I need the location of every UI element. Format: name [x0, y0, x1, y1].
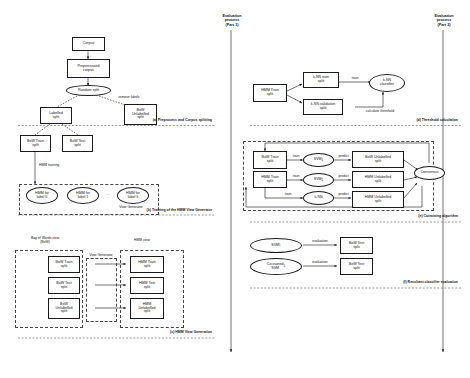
node-svm1-e-text: SVM	[314, 158, 322, 162]
edge-label-train-e-1: train	[288, 155, 304, 159]
panel-caption-d: (d) Threshold calculation	[300, 118, 458, 122]
node-svm1-f-subscript: 1	[279, 244, 281, 247]
node-svm2-e-subscript: 2	[322, 179, 324, 182]
edge-label-predict-e-1: predict	[334, 155, 353, 159]
node-hmm-test-split-c: HMM Test split	[130, 277, 164, 294]
node-cotrained-svm1-f: Co-trained SVM1	[250, 258, 302, 275]
node-knn-train-split: k-NN train split	[303, 72, 339, 88]
node-bow-unlabelled-split-c: BoW Unlabelled split	[48, 298, 80, 319]
node-svm1-f-text: SVM	[271, 244, 279, 248]
edge-label-hmm-training: HMM training	[39, 164, 79, 168]
node-hmm-label-0: HMM for label 0	[26, 187, 58, 204]
node-hmm-unlabelled-split-e-1: HMM Unlabelled split	[352, 171, 404, 188]
node-svm2-e: SVM2	[303, 173, 334, 187]
edge-label-predict-e-3: predict	[334, 193, 353, 197]
node-bow-test-split-c: BoW Test split	[48, 277, 80, 294]
panel-caption-a: (a) Preprocess and Corpus splitting	[60, 118, 212, 122]
spine-label-part1: Evaluation process (Part 1)	[211, 14, 253, 27]
node-hmm-train-split-d: HMM Train split	[253, 84, 287, 102]
node-bow-test-split-a: BoW Test split	[62, 135, 93, 152]
edge-label-remove-labels: remove labels	[106, 96, 152, 100]
node-hmm-train-split-c: HMM Train split	[130, 256, 164, 273]
node-bow-train-split-c: BoW Train split	[48, 256, 80, 273]
panel-caption-c: (c) HMM View Generation	[60, 330, 212, 334]
node-knn-classifier: k-NN classifier	[369, 74, 405, 92]
edge-label-predict-e-2: predict	[334, 175, 353, 179]
node-bow-test-split-f-2: BoW Test split	[340, 258, 373, 275]
panel-caption-e: (e) Cotraining algorithm	[300, 214, 458, 218]
node-svm2-e-text: SVM	[314, 178, 322, 182]
node-bow-test-split-f-1: BoW Test split	[340, 237, 373, 254]
node-cotrained-svm1-f-subscript: 1	[284, 265, 286, 268]
figure-canvas: Evaluation process (Part 1) Evaluation p…	[0, 0, 470, 378]
spine-label-part2: Evaluation process (Part 2)	[423, 14, 465, 27]
edge-label-train-d: train	[340, 77, 370, 81]
edge-label-train-e-3: train	[280, 193, 296, 197]
node-preprocessed-corpus: Preprocessed corpus	[67, 59, 110, 78]
node-svm1-e-subscript: 1	[322, 159, 324, 162]
node-hmm-label-1: HMM for label 1	[67, 187, 99, 204]
edge-label-evaluation-1: evaluation	[305, 240, 335, 244]
node-hmm-train-split-e: HMM Train split	[253, 171, 287, 188]
node-corpus: Corpus	[72, 37, 105, 51]
node-svm1-e: SVM1	[303, 153, 334, 167]
node-bow-train-split-a: BoW Train split	[20, 135, 51, 152]
panel-caption-f: (f) Resultant classifier evaluation	[300, 280, 458, 284]
node-bow-train-split-e: BoW Train split	[253, 151, 287, 169]
node-hmm-label-k: HMM for label k	[117, 187, 149, 204]
node-bow-unlabelled-split-e: BoW Unlabelled split	[352, 151, 404, 168]
node-hmm-ellipsis: ...	[101, 193, 115, 197]
group-view-generator-c	[86, 258, 117, 322]
node-knn-e: k-NN	[303, 191, 334, 205]
node-consensus: Consensus	[414, 166, 445, 180]
node-cotrained-svm1-f-text: Co-trained SVM	[267, 263, 284, 271]
node-hmm-unlabelled-split-e-2: HMM Unlabelled split	[352, 191, 404, 208]
edge-label-train-e-2: train	[288, 175, 304, 179]
edge-label-evaluation-2: evaluation	[305, 261, 335, 265]
node-random-split: Random split	[66, 85, 111, 96]
node-svm1-f: SVM1	[250, 238, 302, 253]
panel-caption-b: (b) Training of the HMM View Generator	[60, 208, 212, 212]
header-bow-view: Bag of Words view (BoW)	[14, 237, 76, 244]
node-hmm-unlabelled-split-c: HMM Unlabelled split	[130, 298, 164, 319]
header-hmm-view: HMM view	[116, 239, 168, 243]
edge-label-calculate-threshold: calculate threshold	[350, 110, 410, 114]
node-knn-validation-split: k-NN validation split	[303, 99, 343, 115]
